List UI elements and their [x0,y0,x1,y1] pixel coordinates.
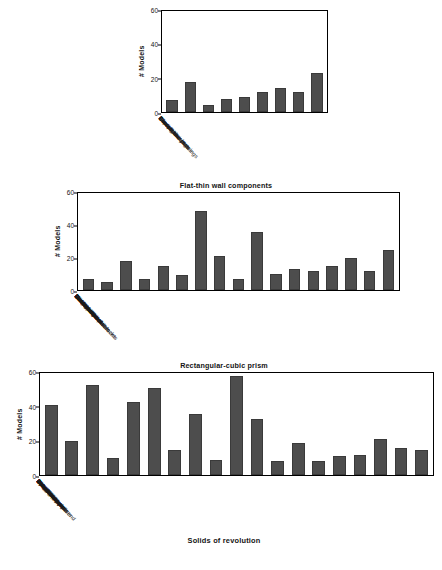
bar [326,266,338,290]
bar [233,279,245,290]
y-axis-ticks: 0204060 [147,10,161,113]
bar [251,232,263,290]
y-axis-tick: 20 [29,438,39,445]
chart-rectangular-cubic-prism: Rectangular-cubic prism # Models 0204060… [14,361,434,545]
chart-title: Flat-thin wall components [52,181,400,190]
bar [251,419,264,475]
bar [395,448,408,475]
bar [168,450,181,476]
y-axis-tick: 40 [29,403,39,410]
bar [148,388,161,475]
bar [176,275,188,290]
plot-row: # Models 0204060 [52,192,400,291]
bar [289,269,301,290]
bar [345,258,357,290]
y-axis-ticks: 0204060 [63,192,77,291]
bar [383,250,395,290]
bar [257,92,268,112]
bar [101,282,113,290]
x-label-row: BearingsBracket like partsClipsContact s… [136,113,328,169]
bar [312,461,325,475]
plot-area [77,192,400,291]
bar [127,402,140,475]
y-axis-label: # Models [52,192,63,291]
bar [120,261,132,290]
chart-title: Rectangular-cubic prism [14,361,434,370]
bar [292,443,305,475]
bar [166,100,177,112]
bar [86,385,99,475]
bar [185,82,196,112]
x-label-row: Bearing blocksContoured surfacesHandlesL… [52,291,400,347]
bar [221,99,232,112]
x-label-row: 90° elbowsBearing like partsBolt like pa… [14,476,434,534]
bar [189,414,202,475]
bar [293,92,304,112]
bar [308,271,320,290]
bar [210,460,223,475]
bar [230,376,243,475]
bar [354,455,367,475]
bar [214,256,226,290]
bar [45,405,58,475]
bar [311,73,322,112]
bar [107,458,120,475]
y-axis-label: # Models [14,372,25,476]
plot-area [39,372,434,476]
bar [203,105,214,112]
x-axis-label: Thin plates [158,115,181,140]
chart-bearings-components: # Models 0204060 BearingsBracket like pa… [136,8,328,169]
bar-series [40,373,433,475]
bar-series [162,11,327,112]
bar [374,439,387,475]
x-axis-label: Spoked wheels [36,478,67,510]
plot-area [161,10,328,113]
bar-series [78,193,399,290]
y-axis-tick: 20 [151,75,161,82]
bar [415,450,428,476]
chart-flat-thin-wall-components: Flat-thin wall components # Models 02040… [52,181,400,347]
y-axis-tick: 60 [29,369,39,376]
bar [195,211,207,290]
bar [65,441,78,475]
bar [158,266,170,290]
y-axis-tick: 40 [151,41,161,48]
x-axis-labels: Bearing blocksContoured surfacesHandlesL… [77,291,79,347]
bar [271,461,284,475]
y-axis-tick: 20 [67,255,77,262]
bar [333,456,346,475]
x-axis-labels: 90° elbowsBearing like partsBolt like pa… [39,476,41,534]
figure-axis-caption: Solids of revolution [14,536,434,545]
y-axis-tick: 60 [151,7,161,14]
plot-row: # Models 0204060 [136,10,328,113]
bar [275,88,286,112]
x-axis-labels: BearingsBracket like partsClipsContact s… [161,113,163,169]
bar [83,279,95,290]
x-axis-label: U shaped parts [74,293,105,325]
plot-row: # Models 0204060 [14,372,434,476]
bar [139,279,151,290]
y-axis-tick: 40 [67,222,77,229]
y-axis-ticks: 0204060 [25,372,39,476]
bar [270,274,282,290]
y-axis-label: # Models [136,10,147,113]
bar [364,271,376,290]
y-axis-tick: 60 [67,189,77,196]
bar [239,97,250,112]
